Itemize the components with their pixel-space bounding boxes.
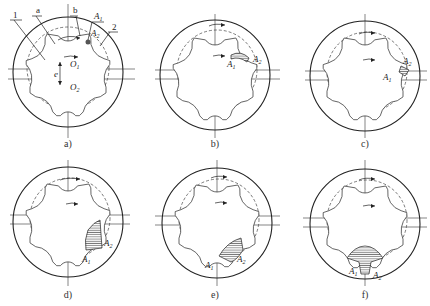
- caption-c: c): [361, 138, 369, 149]
- panel-b-diagram: A1 A2: [145, 0, 290, 140]
- label-eccentricity: e: [54, 69, 58, 79]
- panel-d-diagram: A1 A2: [0, 150, 145, 290]
- caption-f: f): [362, 289, 369, 300]
- label-A1: A1: [81, 254, 91, 265]
- label-point-a: a: [36, 5, 40, 15]
- panel-e-diagram: A1 A2: [145, 150, 290, 290]
- label-A2: A2: [252, 54, 262, 65]
- caption-b: b): [211, 138, 219, 149]
- panel-c-diagram: A1 A2: [285, 0, 430, 140]
- panel-f-diagram: A1 A2: [285, 150, 430, 290]
- label-A2: A2: [402, 56, 412, 67]
- label-inner-rotor: 1: [13, 10, 18, 20]
- label-A2: A2: [90, 28, 100, 39]
- label-A2: A2: [236, 254, 246, 265]
- caption-e: e): [211, 289, 219, 300]
- panel-a-diagram: 1 a b A1 2 A2 e O1 O2: [0, 0, 145, 140]
- label-A2: A2: [372, 270, 382, 281]
- inner-rotor: [26, 34, 110, 116]
- label-point-b: b: [73, 5, 78, 15]
- caption-a: a): [64, 138, 72, 149]
- label-outer-rotor: 2: [112, 22, 117, 32]
- label-A1: A1: [93, 11, 103, 22]
- label-A2: A2: [103, 238, 113, 249]
- caption-d: d): [64, 289, 72, 300]
